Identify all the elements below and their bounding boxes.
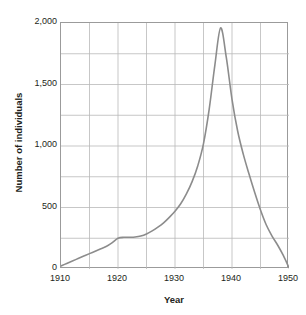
- x-tick-label-1930: 1930: [152, 273, 196, 283]
- x-tick-label-1910: 1910: [38, 273, 82, 283]
- y-tick-label-2000: 2,000: [0, 16, 57, 26]
- x-tick-label-1950: 1950: [266, 273, 306, 283]
- chart-title: [0, 0, 306, 1]
- line-chart-svg: [61, 23, 289, 269]
- y-tick-label-1000: 1,000: [0, 139, 57, 149]
- chart-figure: Number of individuals 05001,0001,5002,00…: [0, 0, 306, 315]
- x-tick-label-1940: 1940: [209, 273, 253, 283]
- y-tick-label-0: 0: [0, 262, 57, 272]
- y-tick-label-1500: 1,500: [0, 78, 57, 88]
- plot-area: [60, 22, 288, 268]
- y-tick-label-500: 500: [0, 201, 57, 211]
- x-axis-title: Year: [60, 294, 288, 305]
- x-tick-label-1920: 1920: [95, 273, 139, 283]
